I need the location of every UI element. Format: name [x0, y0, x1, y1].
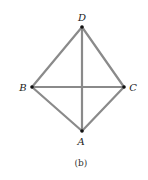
label-c: C: [129, 82, 137, 93]
edge-d-c: [82, 27, 124, 87]
vertex-d: [80, 25, 84, 29]
vertex-b: [30, 85, 34, 89]
vertices: [30, 25, 126, 133]
edge-b-a: [32, 87, 82, 131]
label-d: D: [77, 12, 86, 23]
edge-c-a: [82, 87, 124, 131]
figure-caption: (b): [75, 158, 88, 168]
label-b: B: [18, 82, 26, 93]
vertex-c: [122, 85, 126, 89]
edges: [32, 27, 124, 131]
label-a: A: [76, 136, 84, 147]
vertex-a: [80, 129, 84, 133]
graph-diagram: D B C A (b): [0, 0, 148, 180]
edge-d-b: [32, 27, 82, 87]
